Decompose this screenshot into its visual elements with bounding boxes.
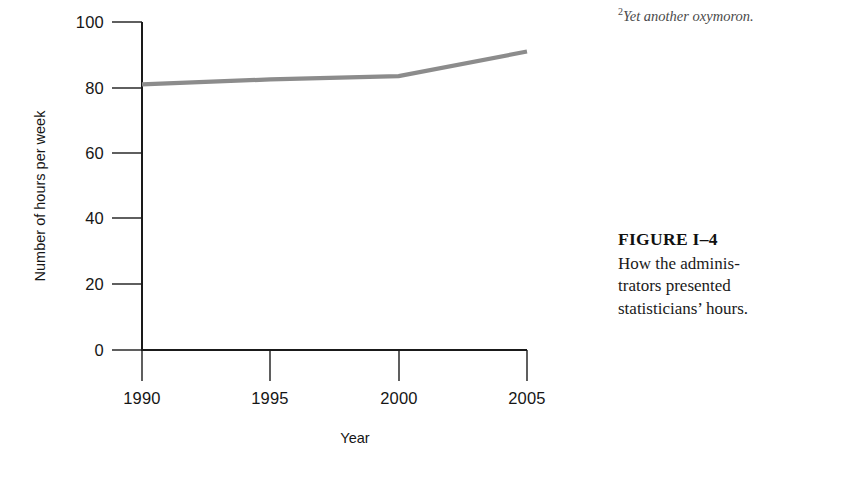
right-column: 2Yet another oxymoron. FIGURE I–4 How th…: [618, 0, 844, 477]
caption-line-3: statisticians’ hours.: [618, 298, 828, 320]
footnote-text: Yet another oxymoron.: [623, 8, 754, 24]
x-tick-label-2005: 2005: [508, 389, 546, 407]
figure-caption-text: How the adminis- trators presented stati…: [618, 253, 828, 320]
figure-number: FIGURE I–4: [618, 229, 828, 250]
data-series-line: [142, 52, 527, 85]
x-tick-label-1995: 1995: [251, 389, 289, 407]
y-axis-title: Number of hours per week: [32, 110, 48, 282]
y-axis-ticks: [112, 22, 142, 350]
caption-line-2: trators presented: [618, 275, 828, 297]
y-tick-label-60: 60: [85, 144, 104, 162]
x-axis-ticks: [142, 350, 527, 381]
y-tick-label-40: 40: [85, 209, 104, 227]
caption-line-1: How the adminis-: [618, 253, 828, 275]
figure-caption: FIGURE I–4 How the adminis- trators pres…: [618, 229, 828, 320]
y-tick-label-80: 80: [85, 79, 104, 97]
y-tick-label-0: 0: [95, 341, 104, 359]
line-chart: 100 80 60 40 20 0 1990 1995 2000 2005 Ye…: [0, 0, 600, 477]
x-axis-title: Year: [340, 430, 369, 446]
footnote: 2Yet another oxymoron.: [618, 6, 844, 25]
y-tick-label-20: 20: [85, 275, 104, 293]
x-tick-label-2000: 2000: [380, 389, 418, 407]
figure-page: 100 80 60 40 20 0 1990 1995 2000 2005 Ye…: [0, 0, 844, 477]
y-tick-label-100: 100: [76, 13, 104, 31]
x-tick-label-1990: 1990: [123, 389, 161, 407]
chart-figure: 100 80 60 40 20 0 1990 1995 2000 2005 Ye…: [0, 0, 600, 477]
